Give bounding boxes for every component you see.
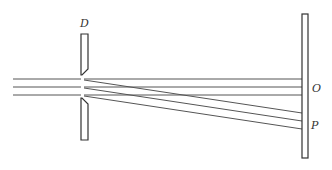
deflected-beam-1 [84,80,302,113]
label-d: D [79,17,89,30]
deflected-beam-3 [84,96,302,129]
incoming-beams [13,79,81,95]
screen [302,14,308,158]
slit-plate-lower [81,98,88,140]
label-p: P [310,119,319,132]
diagram-canvas: D O P [0,0,332,170]
deflected-beam-2 [84,88,302,121]
slit-plate-upper [81,34,88,75]
label-o: O [312,82,321,95]
